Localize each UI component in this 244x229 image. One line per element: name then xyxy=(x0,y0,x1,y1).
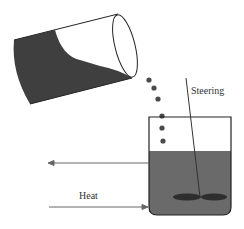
drop xyxy=(160,138,165,143)
heat-label: Heat xyxy=(79,190,98,201)
drop xyxy=(151,85,156,90)
drop xyxy=(155,96,160,101)
pouring-cylinder xyxy=(14,13,143,104)
beaker-liquid xyxy=(149,151,231,215)
drop xyxy=(146,77,151,82)
diagram-canvas xyxy=(0,0,244,229)
heat-in-arrow xyxy=(49,205,148,210)
heat-out-arrow xyxy=(48,161,149,166)
stirrer-paddle-left xyxy=(173,194,201,201)
drop xyxy=(159,125,164,130)
stirring-label: Steering xyxy=(191,85,224,96)
stirrer-paddle-right xyxy=(201,194,227,201)
drop xyxy=(159,113,164,118)
